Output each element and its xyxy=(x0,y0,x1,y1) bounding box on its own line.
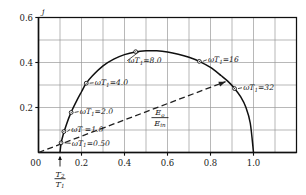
curve-data-marker-dot xyxy=(135,51,136,52)
x-axis-tick-label: 0.2 xyxy=(75,158,89,168)
x-axis-tick-label: 0.4 xyxy=(118,158,132,168)
chart-figure: 00.20.40.60.81.00.20.40.6jωT1=0.50ωT =1.… xyxy=(0,0,306,195)
curve-data-marker-dot xyxy=(199,61,200,62)
curve-data-marker-dot xyxy=(61,142,62,143)
x-axis-tick-label: 0.6 xyxy=(161,158,175,168)
curve-data-marker-dot xyxy=(71,112,72,113)
curve-point-label: ωT =1.0 xyxy=(71,125,103,134)
curve-point-label: ωT1=32 xyxy=(243,83,274,93)
marker-leader-line xyxy=(64,143,70,144)
x-origin-label: 0 xyxy=(30,158,35,168)
y-axis-tick-label: 0.2 xyxy=(19,103,33,113)
curve-data-marker-dot xyxy=(86,83,87,84)
x-axis-tick-label: 1.0 xyxy=(247,158,261,168)
curve-data-marker-dot xyxy=(234,88,235,89)
curve-point-label: ωT1=0.50 xyxy=(72,139,110,149)
curve-point-label: ωT1=2.0 xyxy=(80,107,113,117)
curve-point-label: ωT1=8.0 xyxy=(128,56,161,66)
y-axis-tick-label: 0.4 xyxy=(19,58,33,68)
curve-point-label: ωT1=16 xyxy=(208,55,239,65)
y-axis-tick-label: 0.6 xyxy=(19,13,33,23)
curve-data-marker-dot xyxy=(63,131,64,132)
x-axis-tick-label: 0.8 xyxy=(204,158,218,168)
curve-point-label: ωT1=4.0 xyxy=(95,78,128,88)
x-axis-tick-label: 0 xyxy=(36,158,41,168)
efficiency-chart: 00.20.40.60.81.00.20.40.6jωT1=0.50ωT =1.… xyxy=(0,0,306,195)
